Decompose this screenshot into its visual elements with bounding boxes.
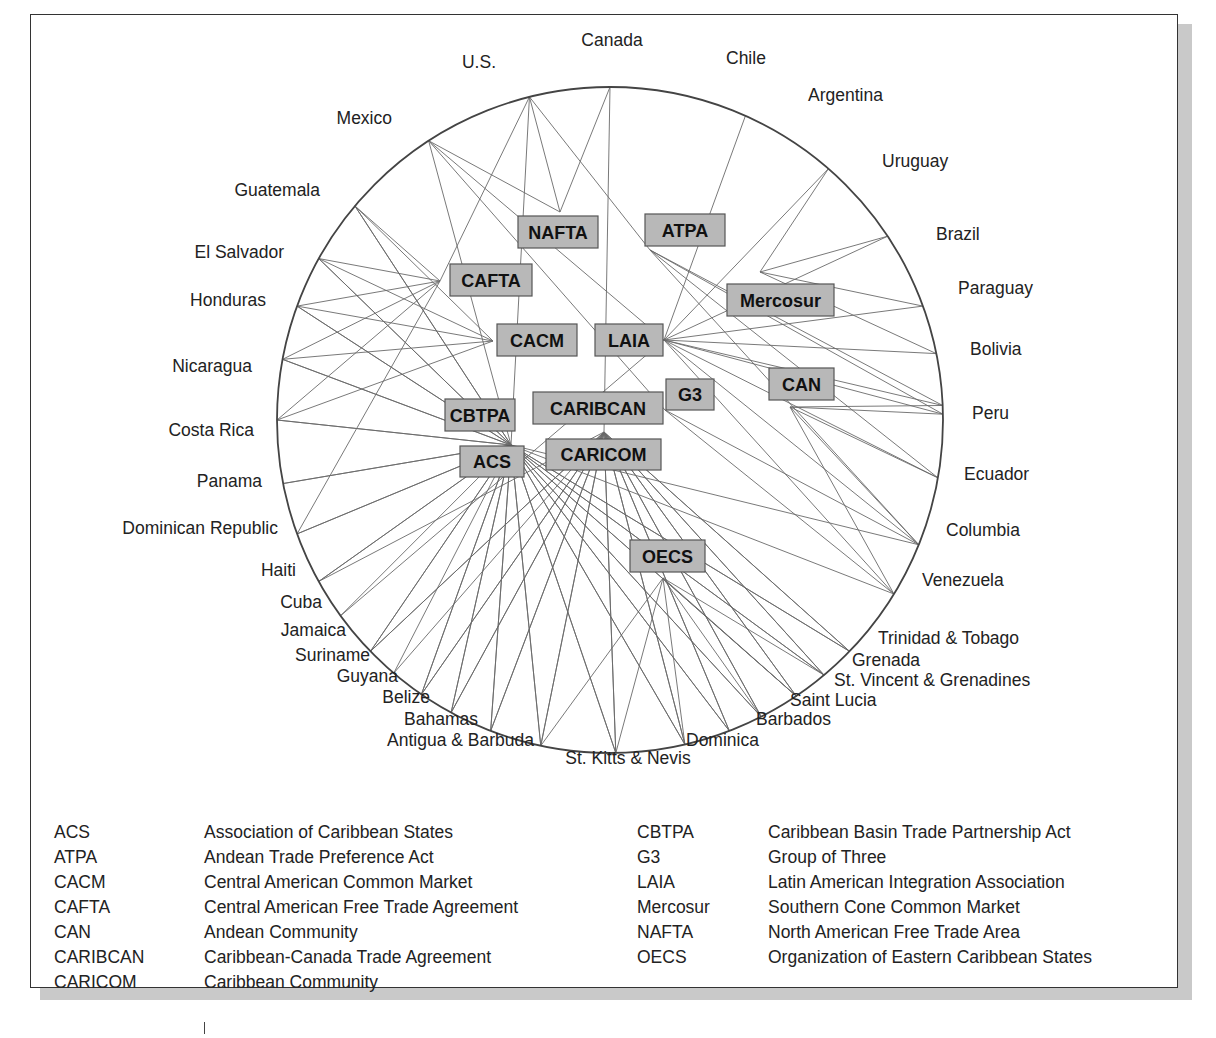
legend-abbreviation: CBTPA [637, 820, 768, 845]
legend-full-name: Association of Caribbean States [204, 820, 453, 845]
legend-abbreviation: CARIBCAN [54, 945, 204, 970]
hub-label: OECS [642, 547, 693, 567]
legend-abbreviation: ATPA [54, 845, 204, 870]
edge-can-columbia [790, 407, 919, 545]
edge-laia-paraguay [664, 340, 936, 354]
country-label-argentina: Argentina [808, 85, 883, 105]
legend-row: CAFTACentral American Free Trade Agreeme… [54, 895, 518, 920]
edge-g3-columbia [665, 410, 919, 545]
legend-row: NAFTANorth American Free Trade Area [637, 920, 1092, 945]
edge-oecs-stvincent [663, 578, 796, 696]
legend-full-name: Caribbean-Canada Trade Agreement [204, 945, 491, 970]
legend-full-name: Caribbean Basin Trade Partnership Act [768, 820, 1071, 845]
hub-label: CACM [510, 331, 564, 351]
edge-oecs-antigua [541, 578, 663, 746]
legend-row: MercosurSouthern Cone Common Market [637, 895, 1092, 920]
legend-row: CARIBCANCaribbean-Canada Trade Agreement [54, 945, 518, 970]
hub-cafta: CAFTA [450, 264, 532, 296]
country-label-columbia: Columbia [946, 520, 1020, 540]
legend-row: CANAndean Community [54, 920, 518, 945]
legend-abbreviation: CAN [54, 920, 204, 945]
edge-cacm-honduras [297, 306, 493, 341]
country-label-us: U.S. [462, 52, 496, 72]
legend-row: LAIALatin American Integration Associati… [637, 870, 1092, 895]
hub-label: LAIA [608, 331, 650, 351]
edge-oecs-dominica [663, 578, 685, 744]
edge-cafta-guatemala [355, 206, 440, 281]
legend-right-column: CBTPACaribbean Basin Trade Partnership A… [637, 820, 1092, 970]
edge-caribcan-canada [604, 87, 610, 432]
legend-row: G3Group of Three [637, 845, 1092, 870]
edge-cafta-elsalvador [319, 259, 440, 281]
hub-label: Mercosur [740, 291, 821, 311]
hub-label: CARIBCAN [550, 399, 646, 419]
country-label-stkitts: St. Kitts & Nevis [565, 748, 691, 768]
country-label-bolivia: Bolivia [970, 339, 1022, 359]
legend-abbreviation: NAFTA [637, 920, 768, 945]
hub-label: CAN [782, 375, 821, 395]
country-label-mexico: Mexico [337, 108, 392, 128]
legend-full-name: Organization of Eastern Caribbean States [768, 945, 1092, 970]
legend-full-name: Central American Free Trade Agreement [204, 895, 518, 920]
country-label-paraguay: Paraguay [958, 278, 1033, 298]
legend-full-name: North American Free Trade Area [768, 920, 1020, 945]
legend-row: ATPAAndean Trade Preference Act [54, 845, 518, 870]
country-label-saintlucia: Saint Lucia [790, 690, 877, 710]
country-label-honduras: Honduras [190, 290, 266, 310]
hub-atpa: ATPA [645, 214, 725, 246]
country-label-jamaica: Jamaica [281, 620, 346, 640]
country-label-cuba: Cuba [280, 592, 322, 612]
hub-mercosur: Mercosur [727, 284, 834, 316]
country-label-nicaragua: Nicaragua [172, 356, 252, 376]
country-label-dominican: Dominican Republic [122, 518, 278, 538]
legend-abbreviation: CARICOM [54, 970, 204, 995]
edge-oecs-saintlucia [663, 578, 761, 717]
legend-abbreviation: ACS [54, 820, 204, 845]
edge-can-bolivia [790, 405, 943, 407]
hub-oecs: OECS [630, 540, 705, 572]
legend-abbreviation: G3 [637, 845, 768, 870]
country-label-brazil: Brazil [936, 224, 980, 244]
legend-full-name: Group of Three [768, 845, 886, 870]
country-label-ecuador: Ecuador [964, 464, 1029, 484]
hub-laia: LAIA [595, 324, 663, 356]
legend-full-name: Andean Trade Preference Act [204, 845, 434, 870]
hub-can: CAN [769, 368, 834, 400]
edge-nafta-mexico [429, 141, 560, 212]
hub-nafta: NAFTA [518, 216, 598, 248]
country-label-belize: Belize [382, 687, 430, 707]
page-tick-mark [204, 1022, 205, 1034]
legend-full-name: Central American Common Market [204, 870, 472, 895]
legend-full-name: Caribbean Community [204, 970, 378, 995]
legend-left-column: ACSAssociation of Caribbean StatesATPAAn… [54, 820, 518, 995]
edge-cafta-us [440, 97, 529, 281]
hub-label: NAFTA [528, 223, 588, 243]
country-label-uruguay: Uruguay [882, 151, 948, 171]
legend-full-name: Southern Cone Common Market [768, 895, 1020, 920]
edge-caricom-saintlucia [604, 432, 761, 717]
legend-abbreviation: OECS [637, 945, 768, 970]
country-label-peru: Peru [972, 403, 1009, 423]
legend-full-name: Andean Community [204, 920, 358, 945]
hub-label: CARICOM [561, 445, 647, 465]
legend-abbreviation: LAIA [637, 870, 768, 895]
edge-nafta-us [529, 97, 560, 212]
country-label-venezuela: Venezuela [922, 570, 1004, 590]
legend-abbreviation: CAFTA [54, 895, 204, 920]
country-label-bahamas: Bahamas [404, 709, 478, 729]
edge-oecs-grenada [663, 578, 824, 675]
country-label-dominica: Dominica [686, 730, 759, 750]
hub-caribcan: CARIBCAN [533, 392, 663, 424]
country-label-trinidad: Trinidad & Tobago [878, 628, 1019, 648]
edge-oecs-stkitts [616, 578, 663, 753]
edge-cafta-costarica [277, 281, 440, 420]
legend-abbreviation: Mercosur [637, 895, 768, 920]
country-label-antigua: Antigua & Barbuda [387, 730, 534, 750]
edge-acs-saintlucia [511, 445, 761, 717]
legend-row: OECSOrganization of Eastern Caribbean St… [637, 945, 1092, 970]
legend-row: ACSAssociation of Caribbean States [54, 820, 518, 845]
country-label-stvincent: St. Vincent & Grenadines [834, 670, 1030, 690]
edge-caricom-dominica [604, 432, 685, 744]
country-label-canada: Canada [581, 30, 643, 50]
legend-abbreviation: CACM [54, 870, 204, 895]
